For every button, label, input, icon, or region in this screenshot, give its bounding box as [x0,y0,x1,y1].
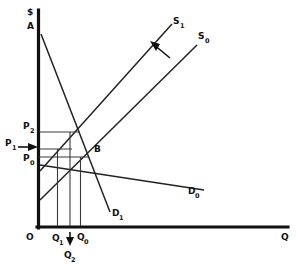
p2-sub: 2 [30,127,35,135]
supply-demand-chart: $ A Q O B S 1 S 0 D 0 D 1 P [0,0,296,271]
p1-main: P [5,138,12,148]
q1-sub: 1 [59,239,64,247]
quantity-label-q1: Q 1 [52,233,64,247]
p2-main: P [23,121,30,131]
price-label-p0: P 0 [23,153,35,167]
point-a-label: A [27,21,34,31]
s0-main: S [198,31,204,41]
p1-pointer-arrow [18,143,38,151]
price-label-p2: P 2 [23,121,35,135]
p0-main: P [23,153,30,163]
origin-label: O [26,232,34,242]
y-axis-label: $ [27,7,33,17]
s1-sub: 1 [180,22,185,30]
demand-curve-d0 [40,165,204,190]
quantity-label-q0: Q 0 [77,232,89,246]
quantity-label-q2: Q 2 [64,250,76,264]
curve-label-s0: S 0 [198,31,210,45]
curve-label-d0: D 0 [188,186,200,200]
p1-sub: 1 [12,144,17,152]
q2-pointer-arrow [66,232,74,246]
demand-curve-d1 [41,34,110,212]
supply-shift-arrow [150,41,170,58]
d1-sub: 1 [119,214,124,222]
curve-label-s1: S 1 [173,16,185,30]
s1-main: S [173,16,179,26]
d0-sub: 0 [195,192,200,200]
s0-sub: 0 [205,37,210,45]
price-label-p1: P 1 [5,138,17,152]
q2-sub: 2 [71,256,76,264]
q0-sub: 0 [84,238,89,246]
curve-label-d1: D 1 [112,208,124,222]
chart-canvas: $ A Q O B S 1 S 0 D 0 D 1 P [0,0,296,271]
x-axis-label: Q [281,232,289,242]
point-b-label: B [94,144,101,154]
p0-sub: 0 [30,159,35,167]
